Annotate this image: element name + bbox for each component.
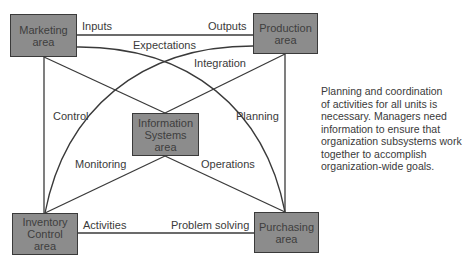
edge-label-integration: Integration — [194, 57, 246, 69]
node-information-systems: Information Systems area — [132, 113, 199, 156]
node-inventory-control: Inventory Control area — [12, 213, 78, 255]
edge-label-outputs: Outputs — [208, 20, 247, 32]
caption-line: information to ensure that — [321, 123, 467, 136]
node-label: Production area — [259, 22, 312, 46]
caption-line: of activities for all units is — [321, 98, 467, 111]
edge-marketing-information — [44, 57, 165, 113]
edge-label-inputs: Inputs — [82, 20, 112, 32]
edge-label-monitoring: Monitoring — [75, 158, 126, 170]
caption-text: Planning and coordination of activities … — [321, 85, 467, 173]
caption-line: necessary. Managers need — [321, 110, 467, 123]
edge-label-activities: Activities — [83, 219, 126, 231]
node-label: Inventory Control area — [22, 216, 67, 252]
node-purchasing: Purchasing area — [254, 212, 319, 253]
edge-label-problem-solving: Problem solving — [171, 219, 249, 231]
node-label: Marketing area — [19, 24, 67, 48]
edge-label-expectations: Expectations — [133, 39, 196, 51]
node-marketing: Marketing area — [10, 14, 77, 57]
edge-label-operations: Operations — [201, 158, 255, 170]
caption-line: Planning and coordination — [321, 85, 467, 98]
node-label: Information Systems area — [138, 117, 193, 153]
edge-label-control: Control — [53, 110, 88, 122]
caption-line: together to accomplish — [321, 148, 467, 161]
edge-label-planning: Planning — [236, 110, 279, 122]
node-label: Purchasing area — [259, 221, 314, 245]
caption-line: organization-wide goals. — [321, 160, 467, 173]
node-production: Production area — [253, 13, 318, 54]
caption-line: organization subsystems work — [321, 135, 467, 148]
